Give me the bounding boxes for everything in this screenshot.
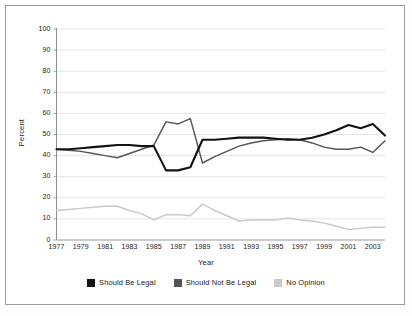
legend-item[interactable]: Should Be Legal <box>87 278 156 287</box>
chart-legend: Should Be LegalShould Not Be LegalNo Opi… <box>0 278 412 287</box>
x-axis-label: Year <box>0 258 412 267</box>
chart-figure: Percent Year 1009080706050403020100 1977… <box>0 0 412 316</box>
legend-label: Should Be Legal <box>99 278 156 287</box>
legend-swatch-icon <box>174 279 182 287</box>
series-line-should-not-be-legal <box>57 119 386 163</box>
y-axis-label: Percent <box>17 98 26 168</box>
y-tick-label: 30 <box>27 172 51 179</box>
legend-item[interactable]: No Opinion <box>274 278 325 287</box>
series-line-should-be-legal <box>57 124 386 170</box>
y-tick-label: 70 <box>27 88 51 95</box>
series-line-no-opinion <box>57 204 386 229</box>
y-tick-label: 40 <box>27 151 51 158</box>
y-tick-label: 50 <box>27 130 51 137</box>
line-chart-plot <box>0 0 412 316</box>
y-tick-label: 90 <box>27 46 51 53</box>
axis-spines <box>54 28 386 240</box>
x-tick-label: 2003 <box>359 243 387 250</box>
legend-label: Should Not Be Legal <box>186 278 257 287</box>
gridlines <box>57 29 386 240</box>
y-tick-label: 80 <box>27 67 51 74</box>
y-tick-label: 100 <box>27 25 51 32</box>
y-tick-label: 20 <box>27 193 51 200</box>
legend-item[interactable]: Should Not Be Legal <box>174 278 257 287</box>
y-axis-label-container: Percent <box>12 96 26 176</box>
y-tick-label: 10 <box>27 214 51 221</box>
legend-swatch-icon <box>87 279 95 287</box>
y-tick-label: 0 <box>27 236 51 243</box>
y-tick-label: 60 <box>27 109 51 116</box>
legend-label: No Opinion <box>286 278 325 287</box>
legend-swatch-icon <box>274 279 282 287</box>
